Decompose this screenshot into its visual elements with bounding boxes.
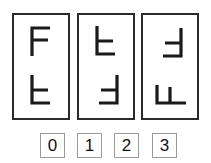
card-2 [77,13,135,120]
letter-f-rotated-180-icon [161,28,183,58]
answer-option-0[interactable]: 0 [40,133,65,158]
answer-label: 1 [85,136,94,156]
card-1 [12,13,70,120]
letter-f-flipped-vertical-icon [95,26,117,56]
letter-f-rotated-90-icon [155,83,187,105]
card-3 [141,13,199,120]
letter-f-rotated-180-icon [97,75,119,105]
answer-options: 0 1 2 3 [0,133,211,158]
answer-option-2[interactable]: 2 [114,133,139,158]
letter-f-flipped-vertical-icon [30,75,52,105]
answer-label: 3 [160,136,169,156]
answer-label: 2 [122,136,131,156]
answer-option-1[interactable]: 1 [77,133,102,158]
letter-f-upright-icon [30,26,52,56]
answer-option-3[interactable]: 3 [152,133,177,158]
answer-label: 0 [48,136,57,156]
